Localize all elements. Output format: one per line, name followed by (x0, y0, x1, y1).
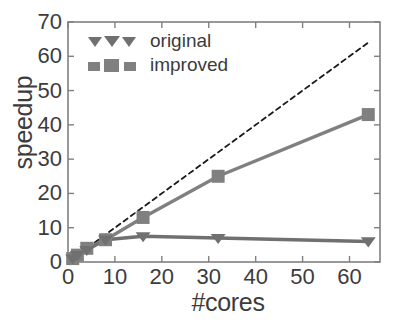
square-icon (84, 55, 140, 75)
chart-legend: original improved (84, 30, 228, 78)
data-point-improved (137, 211, 150, 224)
legend-item-original: original (84, 30, 228, 52)
legend-item-improved: improved (84, 54, 228, 76)
legend-label-original: original (150, 30, 211, 52)
data-point-improved (212, 170, 225, 183)
speedup-chart: speedup #cores 010203040506070 010203040… (0, 0, 400, 323)
data-point-improved (362, 108, 375, 121)
triangle-down-icon (84, 31, 140, 51)
legend-label-improved: improved (150, 54, 228, 76)
